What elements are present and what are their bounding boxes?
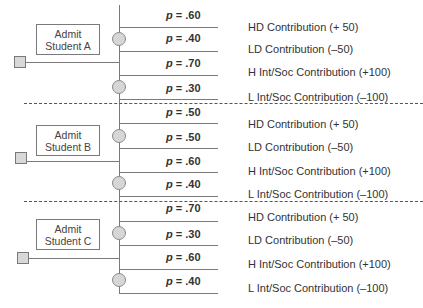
chance-node-circle <box>112 273 126 287</box>
branch-line <box>119 293 218 294</box>
group-separator-ab <box>24 103 423 104</box>
branch-line <box>119 148 218 149</box>
probability-label: p = .60 <box>166 9 226 21</box>
branch-line <box>119 75 218 76</box>
decision-connector <box>27 161 119 162</box>
branch-line <box>119 99 218 100</box>
branch-line <box>119 27 218 28</box>
decision-connector <box>26 62 119 63</box>
probability-label: p = .70 <box>166 202 226 214</box>
outcome-label: L Int/Soc Contribution (–100) <box>248 91 388 103</box>
chance-node-circle <box>112 32 126 46</box>
decision-label-box: Admit Student B <box>36 125 100 156</box>
probability-label: p = .60 <box>166 155 226 167</box>
probability-label: p = .60 <box>166 251 226 263</box>
branch-line <box>119 221 218 222</box>
outcome-label: LD Contribution (–50) <box>248 234 353 246</box>
outcome-label: HD Contribution (+ 50) <box>248 21 358 33</box>
outcome-label: HD Contribution (+ 50) <box>248 211 358 223</box>
outcome-label: H Int/Soc Contribution (+100) <box>248 258 391 270</box>
branch-line <box>119 51 218 52</box>
branch-line <box>119 196 218 197</box>
decision-label-line1: Admit <box>37 223 99 235</box>
decision-node-square <box>15 152 27 164</box>
decision-label-line1: Admit <box>37 129 99 141</box>
decision-label-box: Admit Student A <box>36 24 100 55</box>
probability-label: p = .30 <box>166 82 226 94</box>
chance-node-circle <box>112 129 126 143</box>
probability-label: p = .50 <box>166 131 226 143</box>
decision-node-square <box>14 56 26 68</box>
probability-label: p = .30 <box>166 228 226 240</box>
outcome-label: H Int/Soc Contribution (+100) <box>248 66 391 78</box>
decision-label-line1: Admit <box>37 28 99 40</box>
branch-line <box>119 123 218 124</box>
outcome-label: HD Contribution (+ 50) <box>248 118 358 130</box>
probability-label: p = .70 <box>166 57 226 69</box>
tree-trunk <box>119 5 120 294</box>
chance-node-circle <box>112 176 126 190</box>
decision-node-square <box>17 252 29 264</box>
outcome-label: H Int/Soc Contribution (+100) <box>248 165 391 177</box>
decision-label-line2: Student C <box>37 235 99 247</box>
decision-label-line2: Student B <box>37 141 99 153</box>
decision-label-box: Admit Student C <box>36 219 100 250</box>
chance-node-circle <box>112 226 126 240</box>
branch-line <box>119 172 218 173</box>
probability-label: p = .40 <box>166 178 226 190</box>
branch-line <box>119 269 218 270</box>
outcome-label: L Int/Soc Contribution (–100) <box>248 282 388 294</box>
outcome-label: LD Contribution (–50) <box>248 141 353 153</box>
probability-label: p = .40 <box>166 32 226 44</box>
decision-connector <box>29 258 119 259</box>
decision-label-line2: Student A <box>37 40 99 52</box>
branch-line <box>119 245 218 246</box>
probability-label: p = .50 <box>166 106 226 118</box>
outcome-label: LD Contribution (–50) <box>248 43 353 55</box>
outcome-label: L Int/Soc Contribution (–100) <box>248 188 388 200</box>
chance-node-circle <box>112 80 126 94</box>
decision-tree-diagram: Admit Student A p = .60 p = .40 p = .70 … <box>0 0 423 308</box>
probability-label: p = .40 <box>166 275 226 287</box>
